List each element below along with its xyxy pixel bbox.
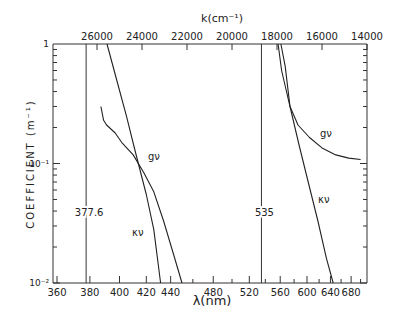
y-axis-label: COEFFICIENT (m⁻¹) <box>25 99 36 228</box>
top-axis-label: k(cm⁻¹) <box>201 12 243 25</box>
top-tick-label: 20000 <box>216 31 248 42</box>
vertical-marker-lines: 377.6535 <box>75 44 274 283</box>
top-tick-label: 26000 <box>81 31 113 42</box>
marker-label-1: 377.6 <box>75 207 104 218</box>
x-tick-label: 360 <box>47 287 66 298</box>
top-tick-label: 16000 <box>306 31 338 42</box>
x-tick-label: 640 <box>321 287 340 298</box>
y-tick-label: 10⁻² <box>29 278 49 288</box>
label-g-left: gν <box>148 151 160 162</box>
x-tick-label: 560 <box>271 287 290 298</box>
curve-4 <box>278 44 361 160</box>
x-tick-label: 680 <box>342 287 361 298</box>
label-g-right: gν <box>320 128 332 139</box>
x-tick-label: 420 <box>137 287 156 298</box>
x-tick-label: 440 <box>161 287 180 298</box>
top-tick-label: 24000 <box>126 31 158 42</box>
curve-labels: gνκνgνκν <box>132 128 332 238</box>
y-tick-label: 1 <box>43 39 49 49</box>
label-kappa-left: κν <box>132 227 144 238</box>
x-axis-label: λ(nm) <box>193 293 232 308</box>
top-tick-label: 22000 <box>171 31 203 42</box>
top-tick-label: 18000 <box>261 31 293 42</box>
x-tick-label: 600 <box>297 287 316 298</box>
top-tick-label: 14000 <box>351 31 383 42</box>
marker-label-2: 535 <box>255 207 274 218</box>
data-curves <box>101 44 361 283</box>
absorption-coefficient-chart: 3603804004204404805205606006406802600024… <box>0 0 400 320</box>
label-kappa-right: κν <box>318 194 330 205</box>
curve-2 <box>101 107 182 284</box>
curve-1 <box>107 44 161 283</box>
x-tick-label: 520 <box>240 287 259 298</box>
curve-3 <box>281 44 333 283</box>
plot-frame <box>53 44 367 283</box>
axis-ticks: 3603804004204404805205606006406802600024… <box>29 31 383 298</box>
x-tick-label: 380 <box>80 287 99 298</box>
x-tick-label: 400 <box>110 287 129 298</box>
